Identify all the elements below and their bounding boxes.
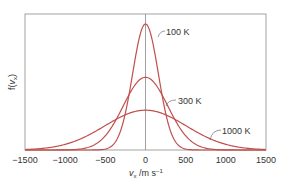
x-tick-label: 1000 <box>216 155 236 165</box>
x-tick-label: 0 <box>143 155 148 165</box>
series-labels: 100 K300 K1000 K <box>158 27 251 140</box>
chart: −1500−1000−500050010001500 100 K300 K100… <box>0 0 287 184</box>
x-tick-label: 1500 <box>256 155 276 165</box>
series-label-1000k: 1000 K <box>222 126 251 136</box>
x-tick-labels: −1500−1000−500050010001500 <box>12 155 276 165</box>
series-label-100k: 100 K <box>166 27 190 37</box>
series-label-300k: 300 K <box>178 96 202 106</box>
x-tick-label: −500 <box>95 155 115 165</box>
x-axis-title: vx /m s−1 <box>129 168 164 179</box>
x-tick-label: −1500 <box>12 155 37 165</box>
x-tick-label: −1000 <box>53 155 78 165</box>
x-tick-label: 500 <box>178 155 193 165</box>
leader-line <box>210 130 221 140</box>
y-axis-title: f(vx) <box>7 74 18 90</box>
leader-line <box>158 31 165 37</box>
